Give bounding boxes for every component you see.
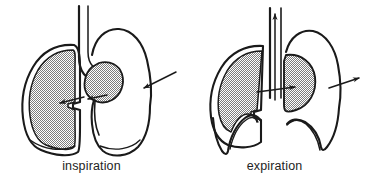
caption-expiration: expiration: [183, 160, 366, 173]
inspiration-illustration: [0, 0, 183, 168]
panel-inspiration: inspiration: [0, 0, 183, 191]
chest-wall-outward-arrow-icon: [329, 78, 359, 88]
heart-icon: [284, 55, 315, 112]
caption-inspiration: inspiration: [0, 160, 183, 173]
expiration-illustration: [183, 0, 366, 168]
panel-expiration: expiration: [183, 0, 366, 191]
respiration-diagram: inspiration: [0, 0, 366, 191]
